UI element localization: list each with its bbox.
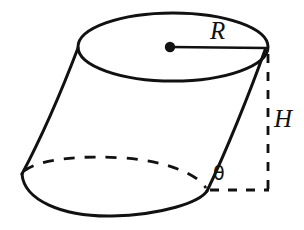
bottom-face-front-arc: [22, 174, 207, 216]
radius-line: [170, 47, 266, 48]
bottom-face-hidden-arc: [24, 157, 206, 188]
height-label: H: [274, 106, 292, 131]
angle-label: θ: [213, 164, 225, 183]
cylinder-drawing-canvas: [0, 0, 304, 230]
center-dot: [165, 42, 175, 52]
radius-label: R: [210, 18, 225, 43]
left-slant-edge: [22, 48, 78, 174]
oblique-cylinder-figure: R H θ: [0, 0, 304, 230]
